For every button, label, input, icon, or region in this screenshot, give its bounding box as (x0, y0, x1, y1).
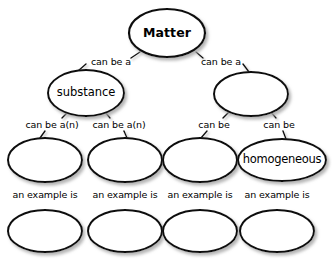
node-heterogeneous[interactable] (163, 138, 237, 182)
concept-map-canvas: can be acan be acan be a(n)can be a(n)ca… (0, 0, 332, 264)
edge-label-matter-mixture: can be a (198, 56, 244, 68)
edge-label-homogeneous-example: an example is (238, 189, 316, 201)
node-homogeneous[interactable] (238, 139, 326, 181)
edge-label-substance-element: can be a(n) (24, 119, 80, 131)
node-mixture[interactable] (214, 72, 288, 116)
node-example-4[interactable] (240, 210, 314, 252)
edge-label-compound-example: an example is (86, 189, 164, 201)
edge-connector-lower (201, 131, 207, 138)
node-matter[interactable] (129, 9, 205, 57)
concept-map-graphics (0, 0, 332, 264)
edge-label-matter-substance: can be a (88, 56, 134, 68)
node-example-3[interactable] (163, 210, 237, 252)
node-compound[interactable] (88, 138, 162, 182)
node-substance[interactable] (48, 70, 124, 116)
edge-label-element-example: an example is (6, 189, 84, 201)
edge-label-mixture-homogeneous: can be (259, 119, 299, 131)
edge-connector-lower (124, 131, 127, 138)
edge-label-mixture-heterogeneous: can be (194, 119, 234, 131)
edge-label-heterogeneous-example: an example is (161, 189, 239, 201)
edge-connector-lower (283, 131, 286, 139)
edge-label-substance-compound: can be a(n) (91, 119, 147, 131)
node-element[interactable] (8, 138, 82, 182)
edge-connector-lower (40, 131, 45, 138)
node-example-1[interactable] (8, 210, 82, 252)
node-example-2[interactable] (88, 210, 162, 252)
